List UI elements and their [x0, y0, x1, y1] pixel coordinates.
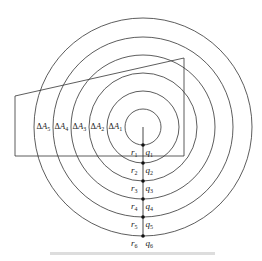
- area-label-dA5: ΔA5: [37, 121, 51, 132]
- area-label-dA1: ΔA1: [109, 121, 123, 132]
- flow-label-q3: q3: [146, 183, 154, 194]
- flow-label-q4: q4: [146, 201, 154, 212]
- area-label-dA3: ΔA3: [73, 121, 87, 132]
- radius-label-r6: r6: [131, 238, 138, 249]
- area-label-dA4: ΔA4: [55, 121, 69, 132]
- intersection-dot: [141, 215, 145, 219]
- flow-label-q6: q6: [146, 238, 154, 249]
- radius-label-r4: r4: [131, 201, 138, 212]
- field-polygon: [15, 58, 184, 156]
- radius-label-r5: r5: [131, 219, 138, 230]
- intersection-dot: [141, 197, 145, 201]
- area-labels: ΔA5ΔA4ΔA3ΔA2ΔA1: [37, 121, 123, 132]
- intersection-dot: [141, 234, 145, 238]
- caption-placeholder: [50, 252, 215, 255]
- area-label-dA2: ΔA2: [91, 121, 105, 132]
- flow-label-q5: q5: [146, 219, 154, 230]
- radius-label-r1: r1: [131, 147, 138, 158]
- intersection-dot: [141, 179, 145, 183]
- flow-label-q2: q2: [146, 165, 154, 176]
- radius-label-r3: r3: [131, 183, 138, 194]
- radius-label-r2: r2: [131, 165, 138, 176]
- intersection-dot: [141, 143, 145, 147]
- flow-label-q1: q1: [146, 147, 154, 158]
- intersection-dot: [141, 161, 145, 165]
- concentric-circles-diagram: ΔA5ΔA4ΔA3ΔA2ΔA1 r1q1r2q2r3q3r4q4r5q5r6q6: [0, 0, 262, 261]
